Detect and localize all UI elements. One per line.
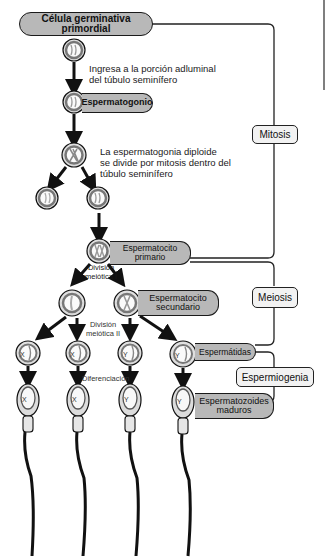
annotation-differentiation: Diferenciación	[82, 375, 130, 384]
node-secondary-spermatocyte: Espermatocito secundario	[138, 290, 219, 316]
svg-text:X: X	[72, 396, 77, 403]
spermiogenesis-bracket-top	[255, 352, 274, 368]
cell-spermatid-3: Y	[118, 341, 142, 365]
phase-meiosis: Meiosis	[252, 287, 298, 308]
meiosis-bracket-top	[190, 262, 274, 286]
cell-pgc	[63, 39, 85, 61]
svg-text:Y: Y	[123, 351, 128, 358]
cell-daughter-left	[36, 187, 58, 209]
annotation-meiosis-1: División meiótica I	[85, 264, 117, 281]
annotation-meiosis-2: División meiótica II	[86, 321, 120, 338]
node-mature-sperm: Espermatozoides maduros	[195, 393, 274, 419]
cell-spermatid-2: X	[66, 341, 90, 365]
node-primordial-germ-cell: Célula germinativa primordial	[19, 12, 153, 36]
annotation-diploid-mitosis: La espermatogonia diploide se divide por…	[100, 147, 231, 180]
cell-secondary-right	[114, 290, 140, 316]
sperm-3: Y	[119, 384, 141, 556]
svg-text:X: X	[20, 351, 25, 358]
svg-text:Y: Y	[175, 352, 180, 359]
sperm-2: X	[67, 384, 89, 556]
sperm-1: X	[17, 384, 39, 556]
cell-diploid-spermatogonium	[62, 143, 86, 167]
svg-text:X: X	[22, 396, 27, 403]
svg-text:Y: Y	[124, 396, 129, 403]
cell-daughter-right	[87, 187, 109, 209]
phase-spermiogenesis: Espermiogenia	[236, 367, 314, 387]
svg-text:Y: Y	[177, 398, 182, 405]
sperm-4: Y	[172, 386, 194, 556]
svg-text:X: X	[70, 351, 75, 358]
node-spermatogonium: Espermatogonio	[82, 93, 153, 113]
node-spermatids: Espermátidas	[195, 343, 256, 361]
annotation-enter-adluminal: Ingresa a la porción adluminal del túbul…	[89, 64, 216, 86]
cell-secondary-left	[59, 290, 85, 316]
meiosis-bracket-bottom	[255, 306, 274, 345]
cell-spermatid-4: Y	[170, 341, 196, 367]
node-primary-spermatocyte: Espermatocito primario	[110, 241, 191, 265]
cell-spermatid-1: X	[16, 341, 40, 365]
phase-mitosis: Mitosis	[252, 125, 298, 144]
cell-primary-spermatocyte	[87, 239, 111, 263]
